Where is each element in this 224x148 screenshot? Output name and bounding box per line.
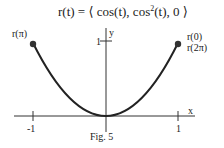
figure-canvas: r(t) = ⟨ cos(t), cos2(t), 0 ⟩ -1 1 1 y x… [0,0,224,148]
equation-title: r(t) = ⟨ cos(t), cos2(t), 0 ⟩ [58,4,188,19]
start-point-label: r(π) [12,28,27,40]
y-tick-label: 1 [96,36,101,47]
x-tick-label-neg: -1 [27,123,35,134]
x-axis-label: x [188,105,193,116]
y-axis-label: y [109,27,114,38]
end-point-marker [175,41,181,47]
figure-caption: Fig. 5 [90,131,113,142]
start-point-marker [30,41,36,47]
x-tick-label-pos: 1 [176,123,181,134]
end-point-label-2: r(2π) [187,42,207,54]
